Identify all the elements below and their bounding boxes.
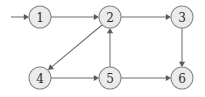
edge-2-4 bbox=[48, 25, 102, 70]
arrow-head-icon bbox=[94, 14, 99, 20]
edge-3-6 bbox=[179, 28, 185, 67]
directed-graph-figure: 123456 bbox=[0, 0, 205, 97]
arrow-head-icon bbox=[166, 14, 171, 20]
arrow-head-icon bbox=[166, 75, 171, 81]
edge-5-6 bbox=[121, 75, 171, 81]
node-circle[interactable] bbox=[29, 6, 51, 28]
node-circle[interactable] bbox=[171, 6, 193, 28]
edge-4-5 bbox=[51, 75, 99, 81]
graph-node-3[interactable]: 3 bbox=[171, 6, 193, 28]
graph-node-1[interactable]: 1 bbox=[29, 6, 51, 28]
node-circle[interactable] bbox=[171, 67, 193, 89]
arrow-head-icon bbox=[179, 62, 185, 67]
edge-line bbox=[51, 25, 102, 67]
edge-1-2 bbox=[51, 14, 99, 20]
graph-canvas: 123456 bbox=[0, 0, 205, 97]
node-circle[interactable] bbox=[29, 67, 51, 89]
arrow-head-icon bbox=[107, 28, 113, 33]
graph-node-2[interactable]: 2 bbox=[99, 6, 121, 28]
edge-2-3 bbox=[121, 14, 171, 20]
edge-entry-1 bbox=[11, 14, 29, 20]
graph-node-6[interactable]: 6 bbox=[171, 67, 193, 89]
arrow-head-icon bbox=[94, 75, 99, 81]
graph-node-5[interactable]: 5 bbox=[99, 67, 121, 89]
graph-node-4[interactable]: 4 bbox=[29, 67, 51, 89]
arrow-head-icon bbox=[24, 14, 29, 20]
edge-5-2 bbox=[107, 28, 113, 67]
node-circle[interactable] bbox=[99, 6, 121, 28]
node-circle[interactable] bbox=[99, 67, 121, 89]
